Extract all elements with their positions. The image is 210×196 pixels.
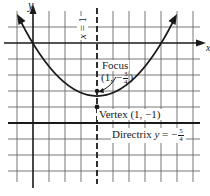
focus-fraction: 34: [123, 71, 129, 86]
grid: [8, 11, 200, 182]
directrix-fraction: 54: [178, 128, 184, 143]
y-axis: [30, 4, 37, 188]
focus-point: [95, 89, 99, 93]
parabola-figure: y x x = 1 Focus (1, −34) Vertex (1, −1) …: [0, 0, 210, 196]
arrow-left-icon: [17, 14, 26, 25]
x-axis-label: x: [205, 42, 210, 53]
axis-of-symmetry-label: x = 1: [77, 16, 88, 40]
focus-coordinates: (1, −34): [100, 71, 134, 86]
graph-canvas: [0, 0, 210, 196]
vertex-label: Vertex (1, −1): [97, 109, 163, 120]
directrix-label: Directrix y = −54: [111, 128, 186, 143]
y-axis-label: y: [27, 0, 34, 11]
arrow-right-icon: [169, 14, 178, 25]
